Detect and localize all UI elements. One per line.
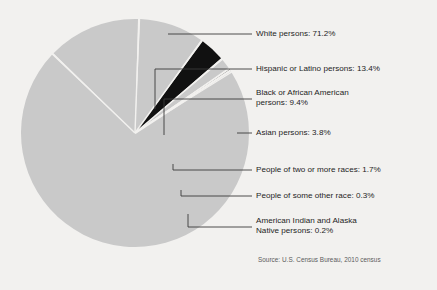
callout-label-black-or-african-american-persons-line2: persons: 9.4% xyxy=(256,98,349,108)
callout-label-american-indian-alaska-native-persons-line1: American Indian and Alaska xyxy=(256,216,357,225)
callout-label-white-persons-line1: White persons: 71.2% xyxy=(256,29,336,38)
source-citation: Source: U.S. Census Bureau, 2010 census xyxy=(258,256,381,263)
callout-label-american-indian-alaska-native-persons: American Indian and Alaska Native person… xyxy=(256,216,357,237)
callout-label-asian-persons-line1: Asian persons: 3.8% xyxy=(256,128,331,137)
callout-label-american-indian-alaska-native-persons-line2: Native persons: 0.2% xyxy=(256,226,357,236)
pie-chart-graphic xyxy=(0,0,437,290)
callout-label-hispanic-or-latino-persons: Hispanic or Latino persons: 13.4% xyxy=(256,64,380,74)
pie-slices xyxy=(21,19,249,247)
callout-label-asian-persons: Asian persons: 3.8% xyxy=(256,128,331,138)
callout-label-some-other-race: People of some other race: 0.3% xyxy=(256,191,375,201)
callout-label-hispanic-or-latino-persons-line1: Hispanic or Latino persons: 13.4% xyxy=(256,64,380,73)
pie-chart-figure: White persons: 71.2% Hispanic or Latino … xyxy=(0,0,437,290)
callout-label-two-or-more-races: People of two or more races: 1.7% xyxy=(256,165,381,175)
callout-label-white-persons: White persons: 71.2% xyxy=(256,29,336,39)
callout-label-black-or-african-american-persons: Black or African American persons: 9.4% xyxy=(256,88,349,109)
callout-label-some-other-race-line1: People of some other race: 0.3% xyxy=(256,191,375,200)
callout-label-black-or-african-american-persons-line1: Black or African American xyxy=(256,88,349,97)
callout-label-two-or-more-races-line1: People of two or more races: 1.7% xyxy=(256,165,381,174)
